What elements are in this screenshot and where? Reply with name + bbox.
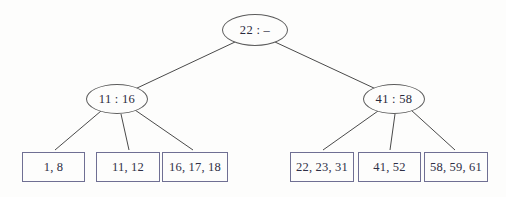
left-internal-to-leaf-3	[135, 110, 193, 150]
tree-leaf-box: 11, 12	[96, 152, 160, 182]
tree-leaf-label: 22, 23, 31	[296, 161, 348, 174]
left-internal-to-leaf-2	[121, 114, 129, 150]
left-internal-to-leaf-1	[55, 111, 101, 150]
tree-diagram: 22 : – 11 : 16 41 : 58 1, 8 11, 12 16, 1…	[0, 0, 506, 197]
root-to-left-internal	[135, 42, 235, 89]
tree-leaf-box: 22, 23, 31	[290, 152, 354, 182]
tree-leaf-label: 41, 52	[373, 161, 405, 174]
tree-node-internal-left-label: 11 : 16	[99, 93, 135, 106]
tree-leaf-label: 16, 17, 18	[169, 161, 221, 174]
tree-node-internal-left: 11 : 16	[86, 84, 148, 114]
tree-node-internal-right-label: 41 : 58	[376, 93, 413, 106]
tree-leaf-box: 41, 52	[358, 152, 421, 182]
tree-leaf-label: 11, 12	[112, 161, 144, 174]
tree-leaf-box: 16, 17, 18	[162, 152, 228, 182]
root-to-right-internal	[275, 42, 376, 89]
right-internal-to-leaf-5	[390, 114, 395, 150]
tree-leaf-box: 1, 8	[22, 152, 85, 182]
tree-leaf-box: 58, 59, 61	[424, 152, 488, 182]
tree-node-root-label: 22 : –	[240, 24, 270, 37]
tree-leaf-label: 58, 59, 61	[430, 161, 482, 174]
right-internal-to-leaf-6	[411, 110, 455, 150]
tree-leaf-label: 1, 8	[44, 161, 64, 174]
right-internal-to-leaf-4	[323, 111, 378, 150]
tree-node-internal-right: 41 : 58	[363, 84, 425, 114]
tree-node-root: 22 : –	[222, 14, 288, 46]
